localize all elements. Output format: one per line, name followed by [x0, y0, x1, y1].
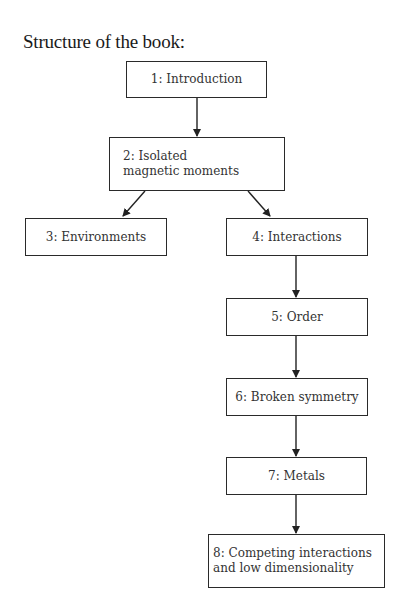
node-label: 6: Broken symmetry	[235, 390, 358, 405]
node-label: 3: Environments	[46, 230, 146, 245]
node-label: 4: Interactions	[252, 230, 341, 245]
node-label: 7: Metals	[268, 469, 325, 484]
node-competing-interactions: 8: Competing interactions and low dimens…	[208, 534, 385, 588]
arrow-2-3	[123, 191, 145, 216]
node-introduction: 1: Introduction	[126, 61, 267, 98]
arrow-2-4	[248, 191, 270, 216]
node-metals: 7: Metals	[226, 457, 367, 495]
node-environments: 3: Environments	[25, 218, 167, 256]
node-interactions: 4: Interactions	[226, 218, 368, 256]
node-label: 2: Isolated magnetic moments	[123, 149, 239, 179]
node-label: 8: Competing interactions and low dimens…	[213, 546, 372, 576]
node-order: 5: Order	[226, 298, 368, 336]
node-label: 1: Introduction	[151, 72, 243, 87]
node-broken-symmetry: 6: Broken symmetry	[226, 378, 368, 416]
node-label: 5: Order	[271, 310, 323, 325]
node-isolated-magnetic-moments: 2: Isolated magnetic moments	[109, 137, 285, 191]
